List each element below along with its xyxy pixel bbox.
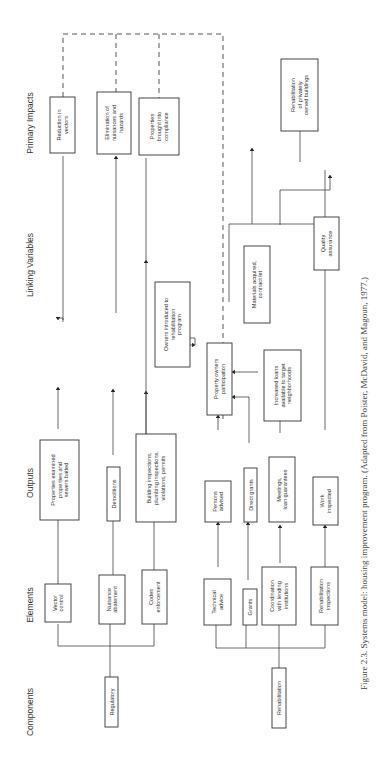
rehab-inspections-label: Rehabilitationinspections <box>318 579 331 613</box>
header-elements: Elements <box>25 587 35 622</box>
header-primary-impacts: Primary Impacts <box>25 92 35 153</box>
systems-model-diagram: Components Elements Outputs Linking Vari… <box>0 0 380 760</box>
header-outputs: Outputs <box>25 468 35 498</box>
building-inspections-label: Building inspections,plumbing inspection… <box>146 451 165 505</box>
direct-grants-label: Direct grants <box>248 479 254 511</box>
coordination-label: Coordinationwith lendinginstitutions <box>269 580 288 612</box>
header-linking-variables: Linking Variables <box>25 233 35 297</box>
figure-caption: Figure 2.3. Systems model: housing impro… <box>359 277 369 690</box>
regulatory-label: Regulatory <box>109 688 115 715</box>
grants-label: Grants <box>247 598 253 615</box>
vector-control-label: Vectorcontrol <box>52 595 65 612</box>
feedback-dashed-line <box>63 34 223 420</box>
rehabilitation-label: Rehabilitation <box>276 681 282 715</box>
property-owners-label: Property ownersparticipation <box>213 358 226 399</box>
increased-loans-label: Increased loansavailable to targetneighb… <box>273 363 292 408</box>
properties-compliance-label: Propertiesbrought intocompliance <box>149 112 168 142</box>
persons-advised-label: Personsadvised <box>212 491 225 512</box>
demolitions-label: Demolitions <box>111 479 117 508</box>
nuisance-abatement-label: Nuisanceabatement <box>106 586 119 613</box>
header-components: Components <box>25 688 35 736</box>
